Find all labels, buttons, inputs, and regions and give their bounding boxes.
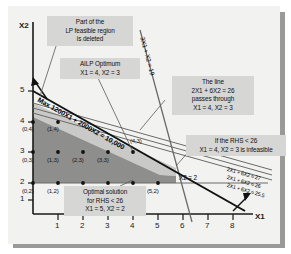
y-axis-label: X2 (19, 22, 29, 31)
lattice-label-0-4: (0,4) (22, 126, 34, 133)
x-tick-label-2: 2 (80, 222, 84, 231)
x-axis-label: X1 (255, 213, 265, 222)
callout-line-26: The line 2X1 + 6X2 = 26 passes through X… (172, 76, 254, 115)
x-tick-label-7: 7 (205, 222, 209, 231)
y-tick-label-5: 5 (20, 86, 24, 95)
lattice-label-0-2: (0,2) (22, 188, 34, 195)
lattice-dot (131, 150, 135, 154)
lattice-label-3-3: (3,3) (97, 157, 109, 164)
x-tick-label-6: 6 (180, 222, 184, 231)
lattice-dot (81, 150, 85, 154)
lattice-dot (31, 120, 35, 124)
leader-line26 (140, 100, 165, 130)
y-tick-label-1: 1 (20, 195, 24, 204)
lattice-dot (156, 181, 160, 185)
x-tick-label-4: 4 (130, 222, 134, 231)
lattice-dot (31, 181, 35, 185)
lattice-label-2-3: (2,3) (72, 157, 84, 164)
callout-ailp-optimum: AILP Optimum X1 = 4, X2 = 3 (60, 58, 140, 79)
lattice-dot (56, 150, 60, 154)
leader-deleted-region (40, 40, 58, 96)
x-tick-label-3: 3 (105, 222, 109, 231)
lattice-label-1-3: (1,3) (47, 157, 59, 164)
lattice-label-1-4: (1,4) (47, 126, 59, 133)
lattice-dot (56, 181, 60, 185)
lattice-label-5-2: (5,2) (147, 188, 159, 195)
x-tick-label-5: 5 (155, 222, 159, 231)
lattice-label-1-2: (1,2) (47, 188, 59, 195)
lattice-dot (31, 150, 35, 154)
figure-root: X2 X1 5 4 3 2 1 1 2 3 4 5 6 7 8 (0,4) (1… (0, 0, 291, 254)
lattice-dot (56, 120, 60, 124)
lattice-dot (81, 181, 85, 185)
y-tick-label-2: 2 (20, 178, 24, 187)
lattice-dot (131, 181, 135, 185)
y-tick-label-3: 3 (20, 147, 24, 156)
lattice-label-0-3: (0,3) (22, 157, 34, 164)
x-tick-label-8: 8 (230, 222, 234, 231)
callout-deleted-region: Part of the LP feasible region is delete… (47, 16, 133, 46)
lattice-dot (106, 181, 110, 185)
line-label-x2-2: X2 = 2 (179, 174, 197, 181)
x-tick-label-1: 1 (55, 222, 59, 231)
callout-optimal-solution: Optimal solution for RHS < 26 X1 = 5, X2… (64, 186, 146, 216)
callout-rhs-infeasible: If the RHS < 26 X1 = 4, X2 = 3 is infeas… (186, 135, 286, 156)
lattice-dot (106, 150, 110, 154)
lattice-label-4-3: (4,3) (130, 138, 142, 145)
